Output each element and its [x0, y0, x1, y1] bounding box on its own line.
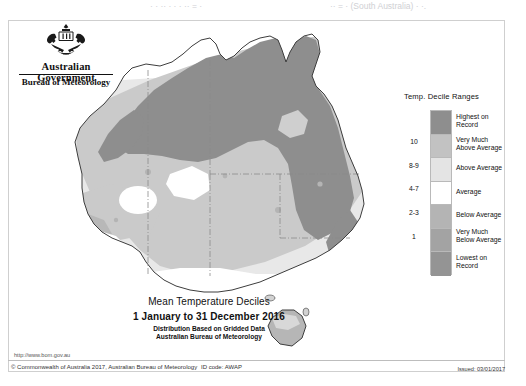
- map-period: 1 January to 31 December 2016: [104, 311, 314, 322]
- top-strip-fragment-right: ·· = · (South Australia) · ·.: [330, 0, 426, 13]
- legend-swatch-below-average: [431, 205, 451, 229]
- issued-date-text: Issued: 03/01/2017: [0, 366, 505, 372]
- legend-swatch-lowest-on-record: [431, 252, 451, 276]
- legend-decile-10: 10: [402, 138, 426, 145]
- legend-label-highest-on-record: Highest on Record: [456, 113, 508, 129]
- legend-decile-4-7: 4-7: [402, 185, 426, 192]
- legend-decile-1: 1: [402, 233, 426, 240]
- legend-label-above-average: Above Average: [456, 164, 508, 172]
- legend-title: Temp. Decile Ranges: [404, 92, 479, 101]
- bureau-of-meteorology-label: Bureau of Meteorology: [13, 77, 119, 87]
- legend-label-very-much-below-average: Very Much Below Average: [456, 228, 508, 244]
- footer-divider: [8, 360, 505, 361]
- legend-decile-8-9: 8-9: [402, 162, 426, 169]
- map-title-block: Mean Temperature Deciles 1 January to 31…: [104, 296, 314, 342]
- legend-swatch-very-much-below-average: [431, 229, 451, 253]
- top-strip-fragment-left: · · ·· · · · ·· = ·: [150, 0, 202, 13]
- legend-swatch-very-much-above-average: [431, 135, 451, 159]
- bom-header-block: Australian Government Bureau of Meteorol…: [13, 22, 119, 94]
- legend-swatch-above-average: [431, 158, 451, 182]
- legend-swatch-average: [431, 182, 451, 206]
- legend-label-average: Average: [456, 188, 508, 196]
- legend-swatch-highest-on-record: [431, 111, 451, 135]
- bom-url[interactable]: http://www.bom.gov.au: [14, 352, 70, 358]
- map-page: · · ·· · · · ·· = · ·· = · (South Austra…: [0, 0, 526, 386]
- legend-swatch-column: [430, 110, 452, 275]
- legend-label-lowest-on-record: Lowest on Record: [456, 254, 508, 270]
- map-title: Mean Temperature Deciles: [104, 296, 314, 307]
- australian-coat-of-arms-icon: [43, 22, 89, 60]
- crest-divider: [19, 74, 113, 75]
- legend-label-very-much-above-average: Very Much Above Average: [456, 136, 508, 152]
- legend-decile-2-3: 2-3: [402, 209, 426, 216]
- legend-panel: Temp. Decile Ranges 10 8-9 4-7 2-3 1 Hig…: [402, 92, 506, 282]
- map-distribution-note: Distribution Based on Gridded Data: [104, 325, 314, 333]
- legend-label-below-average: Below Average: [456, 211, 508, 219]
- top-cutoff-strip: · · ·· · · · ·· = · ·· = · (South Austra…: [0, 0, 526, 13]
- map-agency-note: Australian Bureau of Meteorology: [104, 333, 314, 341]
